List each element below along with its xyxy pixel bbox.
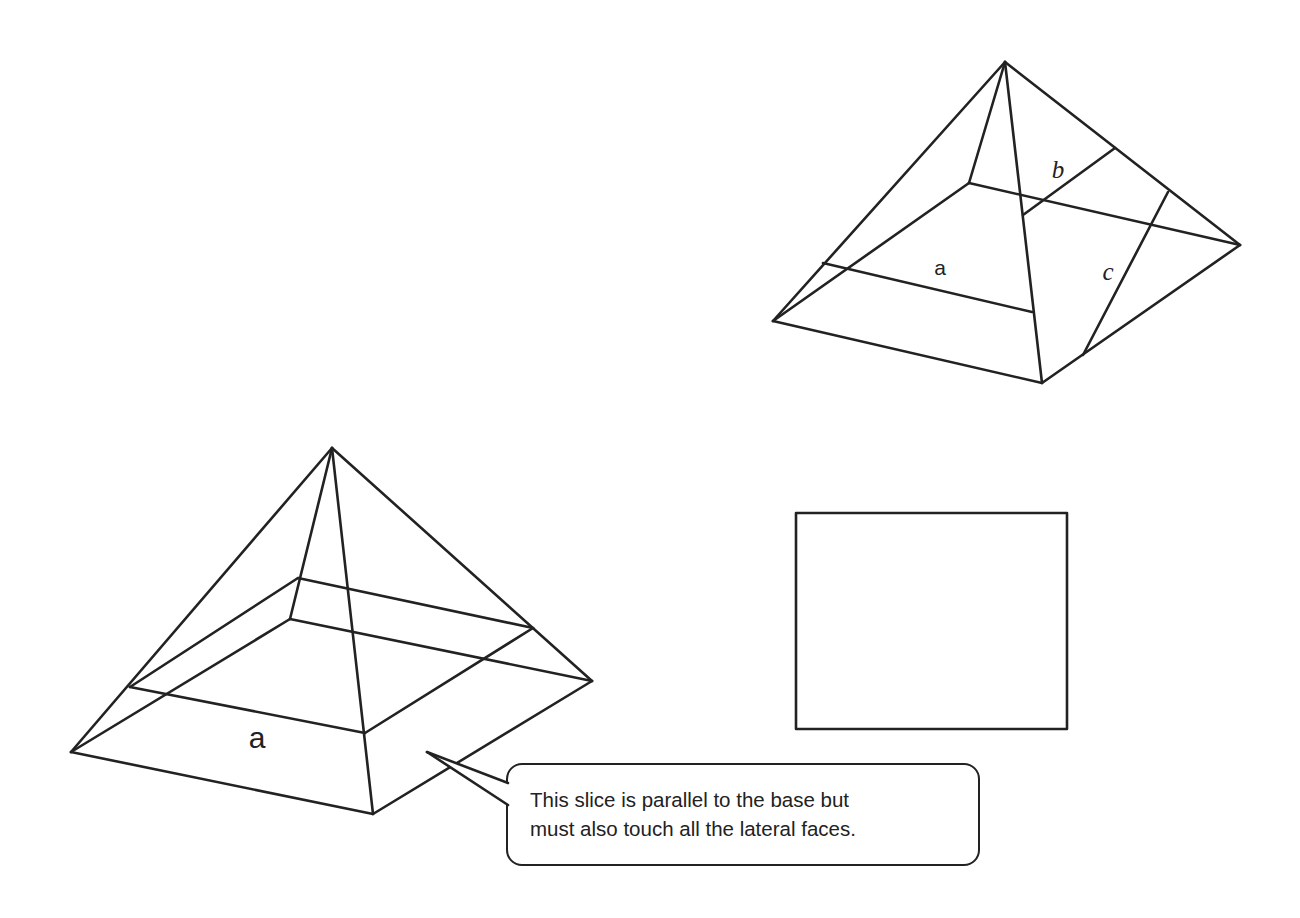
- lateral-edge-right: [332, 448, 592, 681]
- slice-a-line: [823, 263, 1032, 312]
- base-edge-front-left: [773, 321, 1042, 383]
- bottom-pyramid-with-horizontal-slice: a: [71, 448, 592, 814]
- lateral-edge-front: [1005, 62, 1042, 383]
- base-edge-front-right: [1042, 245, 1240, 383]
- lateral-edge-left: [71, 448, 332, 752]
- top-pyramid-with-slices: abc: [773, 62, 1240, 383]
- slice-edge-back-right: [298, 578, 533, 628]
- callout-text-line-2: must also touch all the lateral faces.: [530, 814, 964, 843]
- slice-edge-front-right: [365, 628, 533, 733]
- base-edge-back-right: [290, 619, 592, 681]
- cross-section-drawing-box: [796, 513, 1067, 729]
- slice-label-c: c: [1102, 258, 1113, 285]
- callout-bubble: This slice is parallel to the base but m…: [506, 763, 980, 866]
- slice-edge-front-left: [130, 687, 365, 733]
- lateral-edge-left: [773, 62, 1005, 321]
- slice-label-b: b: [1052, 156, 1065, 183]
- slice-label-a: a: [249, 721, 266, 754]
- slice-edge-back-left: [130, 578, 298, 687]
- slice-c-line: [1083, 192, 1168, 355]
- slice-label-a: a: [934, 256, 946, 279]
- base-edge-back-left: [773, 183, 969, 321]
- callout-text-line-1: This slice is parallel to the base but: [530, 785, 964, 814]
- base-edge-front-left: [71, 752, 373, 814]
